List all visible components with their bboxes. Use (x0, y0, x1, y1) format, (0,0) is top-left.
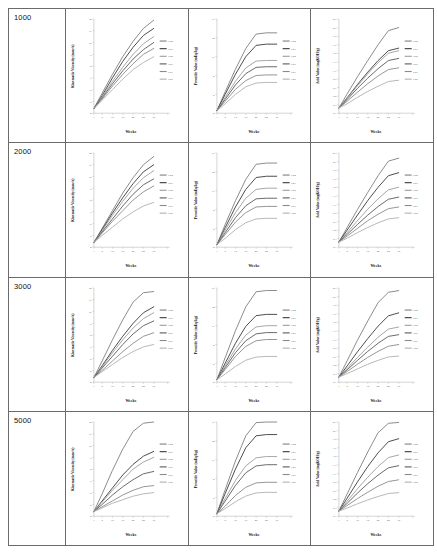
y-tick-label: 2.1 (333, 160, 337, 164)
chart-panel: 258111417151015202530Peroxide Value (mEq… (189, 412, 311, 545)
x-tick-label: 1 (338, 518, 340, 522)
x-tick-label: 20 (254, 518, 257, 522)
x-axis-title: Weeks (248, 533, 259, 537)
series-line (339, 465, 399, 510)
x-tick-label: 20 (377, 518, 380, 522)
series-line (217, 434, 277, 513)
x-tick-label: 15 (367, 115, 370, 119)
x-tick-label: 1 (216, 384, 218, 388)
line-chart: 0.10.30.50.70.91.11.31.51.71.92.12.31510… (311, 143, 433, 276)
line-chart: 456789101112151015202530Kinematic Viscos… (66, 143, 188, 276)
y-axis-title: Kinematic Viscosity (mm²/s) (71, 178, 75, 222)
y-tick-label: 1.9 (333, 437, 337, 441)
y-tick-label: 0.5 (333, 94, 337, 98)
x-tick-label: 25 (387, 384, 390, 388)
x-tick-label: 20 (377, 250, 380, 254)
y-tick-label: 0.9 (333, 77, 337, 81)
y-tick-label: 8 (213, 208, 215, 212)
x-axis-title: Weeks (371, 533, 382, 537)
figure-row: 2000456789101112151015202530Kinematic Vi… (9, 143, 434, 277)
legend-label: G21 (291, 70, 296, 74)
legend-label: G27 (413, 196, 418, 200)
x-tick-label: 10 (356, 115, 359, 119)
x-tick-label: 10 (111, 115, 114, 119)
y-tick-label: 7 (90, 345, 92, 349)
series-line (217, 464, 277, 513)
series-line (94, 179, 154, 243)
legend-label: G21 (291, 338, 296, 342)
y-tick-label: 9 (90, 187, 92, 191)
line-chart: 456789101112151015202530Kinematic Viscos… (66, 278, 188, 411)
legend-label: G23 (291, 315, 296, 319)
legend-label: G23 (168, 450, 173, 454)
legend-label: G23 (291, 450, 296, 454)
x-tick-label: 25 (265, 250, 268, 254)
x-tick-label: 10 (234, 518, 237, 522)
row-label-cell: 2000 (9, 143, 66, 277)
x-tick-label: 1 (216, 518, 218, 522)
x-axis-title: Weeks (125, 264, 136, 268)
row-label-cell: 5000 (9, 411, 66, 545)
legend-label: G26 (291, 346, 296, 350)
y-tick-label: 11 (89, 432, 92, 436)
y-tick-label: 1.9 (333, 169, 337, 173)
x-axis-title: Weeks (371, 130, 382, 134)
y-tick-label: 0.3 (333, 506, 337, 510)
x-tick-label: 25 (387, 518, 390, 522)
line-chart: 258111417151015202530Peroxide Value (mEq… (189, 278, 311, 411)
x-tick-label: 1 (93, 518, 95, 522)
y-tick-label: 8 (213, 476, 215, 480)
legend-label: G26 (168, 211, 173, 215)
y-tick-label: 4 (90, 246, 92, 250)
series-line (339, 207, 399, 242)
series-line (94, 344, 154, 377)
legend-label: G27 (413, 62, 418, 66)
legend-label: G21 (291, 204, 296, 208)
y-tick-label: 10 (89, 444, 92, 448)
x-axis-title: Weeks (248, 264, 259, 268)
line-chart: 0.10.30.50.70.91.11.31.51.71.92.12.31510… (311, 278, 433, 411)
series-line (339, 218, 399, 242)
chart-panel: 456789101112151015202530Kinematic Viscos… (66, 278, 188, 411)
y-tick-label: 2.3 (333, 17, 337, 21)
chart-cell: 258111417151015202530Peroxide Value (mEq… (188, 411, 311, 545)
y-tick-label: 0.3 (333, 103, 337, 107)
y-tick-label: 5 (90, 368, 92, 372)
x-tick-label: 15 (367, 518, 370, 522)
y-tick-label: 6 (90, 491, 92, 495)
figure-grid: 1000456789101112151015202530Kinematic Vi… (8, 8, 434, 546)
x-axis-title: Weeks (248, 399, 259, 403)
y-axis-title: Acid Value (mgKOH/g) (316, 316, 320, 353)
series-line (339, 344, 399, 377)
y-tick-label: 1.3 (333, 60, 337, 64)
legend-label: G28 (291, 54, 296, 58)
y-tick-label: 0.1 (333, 380, 337, 384)
x-tick-label: 10 (111, 384, 114, 388)
legend-label: G26 (413, 77, 418, 81)
legend-label: G28 (413, 323, 418, 327)
y-tick-label: 11 (211, 458, 214, 462)
chart-cell: 0.10.30.50.70.91.11.31.51.71.92.12.31510… (311, 411, 434, 545)
y-tick-label: 9 (90, 53, 92, 57)
y-axis-title: Acid Value (mgKOH/g) (316, 182, 320, 219)
legend-label: G23 (291, 181, 296, 185)
x-tick-label: 30 (397, 384, 400, 388)
legend-label: G23 (168, 181, 173, 185)
series-line (339, 480, 399, 511)
row-label: 5000 (9, 412, 65, 425)
x-tick-label: 20 (254, 115, 257, 119)
x-tick-label: 10 (234, 115, 237, 119)
legend-label: G27 (168, 465, 173, 469)
y-tick-label: 0.5 (333, 229, 337, 233)
y-tick-label: 11 (89, 297, 92, 301)
legend-label: G21 (413, 472, 418, 476)
chart-panel: 0.10.30.50.70.91.11.31.51.71.92.12.31510… (311, 143, 433, 276)
y-tick-label: 0.7 (333, 354, 337, 358)
x-tick-label: 5 (347, 115, 349, 119)
x-tick-label: 15 (244, 518, 247, 522)
row-label: 3000 (9, 278, 65, 291)
legend-label: G22 (413, 39, 418, 43)
y-axis-title: Peroxide Value (mEq/kg) (194, 315, 198, 354)
y-tick-label: 0.1 (333, 246, 337, 250)
x-tick-label: 5 (347, 384, 349, 388)
